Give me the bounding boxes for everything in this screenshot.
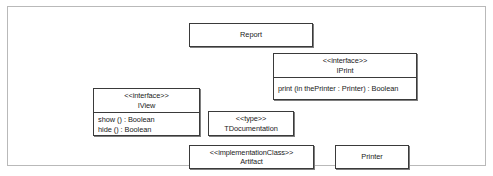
class-node-tdocumentation-name-compartment: <<type>> TDocumentation [209,112,293,135]
class-node-tdocumentation-name: TDocumentation [224,124,278,133]
diagram-canvas: Report <<interface>> IPrint print (in th… [0,0,493,176]
class-node-tdocumentation[interactable]: <<type>> TDocumentation [208,111,294,136]
class-node-iview-stereotype: <<interface>> [124,91,168,100]
class-node-report-name-compartment: Report [190,24,312,46]
class-node-printer-name-compartment: Printer [336,146,408,168]
class-node-printer-name: Printer [361,152,382,161]
class-node-artifact-name: Artifact [240,157,263,166]
class-node-artifact-name-compartment: <<implementationClass>> Artifact [190,146,313,168]
class-node-iview-operations-compartment: show () : Boolean hide () : Boolean [94,113,199,136]
class-node-iview-name: IView [138,101,156,110]
class-node-iprint-stereotype: <<interface>> [323,56,367,65]
class-node-tdocumentation-stereotype: <<type>> [236,114,266,123]
class-node-iprint-operations-compartment: print (in thePrinter : Printer) : Boolea… [274,78,416,100]
class-node-iprint-operation: print (in thePrinter : Printer) : Boolea… [278,84,398,93]
class-node-iprint[interactable]: <<interface>> IPrint print (in thePrinte… [273,53,417,100]
class-node-iview-operation-hide: hide () : Boolean [98,125,151,134]
class-node-iprint-name-compartment: <<interface>> IPrint [274,54,416,78]
class-node-report[interactable]: Report [189,23,313,47]
class-node-artifact-stereotype: <<implementationClass>> [210,148,294,157]
class-node-iview-name-compartment: <<interface>> IView [94,89,199,113]
class-node-report-name: Report [240,30,262,39]
class-node-iprint-name: IPrint [337,66,354,75]
class-node-iview-operation-show: show () : Boolean [98,115,155,124]
class-node-iview[interactable]: <<interface>> IView show () : Boolean hi… [93,88,200,136]
class-node-printer[interactable]: Printer [335,145,409,169]
diagram-frame: Report <<interface>> IPrint print (in th… [7,6,486,166]
class-node-artifact[interactable]: <<implementationClass>> Artifact [189,145,314,169]
